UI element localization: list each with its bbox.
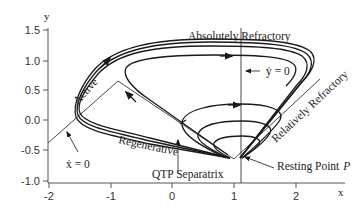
y-axis: 1.5 1.0 0.5 0.0 -0.5 -1.0 y [21,10,50,187]
y-axis-label: y [44,10,50,22]
y-tick-label: -1.0 [21,175,40,187]
resting-point-text: Resting Point [277,160,340,173]
x-axis-label: x [338,186,344,198]
y-tick-label: -0.5 [21,144,40,156]
label-x-nullcline: ẋ = 0 [66,158,90,170]
label-y-nullcline: ẏ = 0 [266,65,290,78]
x-tick-label: -1 [106,190,116,202]
y-tick-label: 0.0 [25,114,40,126]
x-nullcline-pointer [67,132,78,152]
resting-point-pointer [245,157,274,168]
y-tick-label: 0.5 [25,84,40,96]
resting-point-symbol: P [342,160,350,172]
label-resting-point: Resting PointP [277,160,350,173]
x-axis: -2 -1 0 1 2 x [44,183,345,202]
label-absolutely-refractory: Absolutely Refractory [188,30,291,43]
arrow-up-left [126,92,136,102]
y-tick-label: 1.5 [25,24,40,36]
x-tick-label: 0 [169,190,175,202]
x-tick-label: 1 [231,190,237,202]
label-active: Active [71,76,100,107]
x-tick-label: -2 [44,190,54,202]
label-qtp-separatrix: QTP Separatrix [152,168,224,181]
y-tick-label: 1.0 [25,55,40,67]
x-tick-label: 2 [293,190,299,202]
phase-plane-diagram: 1.5 1.0 0.5 0.0 -0.5 -1.0 y -2 -1 0 1 2 … [0,0,363,213]
